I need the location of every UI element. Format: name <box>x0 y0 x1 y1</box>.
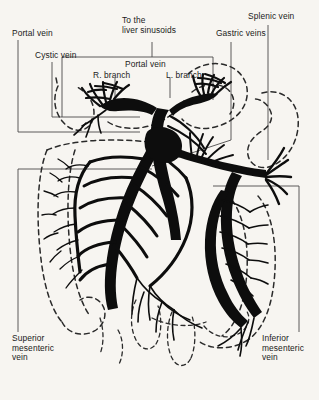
sinusoids-line-1: To the <box>122 15 145 25</box>
small-intestine-loop-1 <box>132 300 157 349</box>
smv-line-2: mesenteric <box>12 343 54 353</box>
label-to-the-liver-sinusoids: To theliver sinusoids <box>122 16 176 35</box>
label-inferior-mesenteric-vein: Inferiormesentericvein <box>262 334 304 363</box>
small-intestine-loop-7 <box>118 330 123 366</box>
portal-vein-left-branch <box>169 93 218 116</box>
imv-line-2: mesenteric <box>262 343 304 353</box>
label-cystic-vein: Cystic vein <box>35 51 77 61</box>
smv-line-1: Superior <box>12 333 44 343</box>
imv-line-1: Inferior <box>262 333 289 343</box>
cystic-vein <box>74 110 106 137</box>
label-superior-mesenteric-vein: Superiormesentericvein <box>12 334 54 363</box>
label-r-branch: R. branch <box>93 71 130 81</box>
ileal-branches <box>132 278 202 340</box>
transverse-colon-outline <box>47 140 150 150</box>
label-l-branch: L. branch <box>166 71 202 81</box>
marginal-arcade-left <box>75 162 90 272</box>
gallbladder-neck <box>56 78 58 86</box>
label-portal-vein: Portal vein <box>12 29 53 39</box>
spleen-outline <box>248 92 299 168</box>
splenic-hilar-branches <box>266 148 291 204</box>
portal-venous-vessels <box>42 74 291 356</box>
smv-line-3: vein <box>12 352 28 362</box>
label-portal-vein-center: Portal vein <box>125 60 166 70</box>
label-splenic-vein: Splenic vein <box>248 12 294 22</box>
sinusoids-line-2: liver sinusoids <box>122 25 176 35</box>
descending-colon-outline <box>248 196 275 340</box>
portal-vein-right-branch <box>100 98 157 115</box>
imv-line-3: vein <box>262 352 278 362</box>
label-gastric-veins: Gastric veins <box>216 29 266 39</box>
portal-venous-system-figure: .vein { fill: #0d0d0d; stroke: none; } .… <box>0 0 319 400</box>
